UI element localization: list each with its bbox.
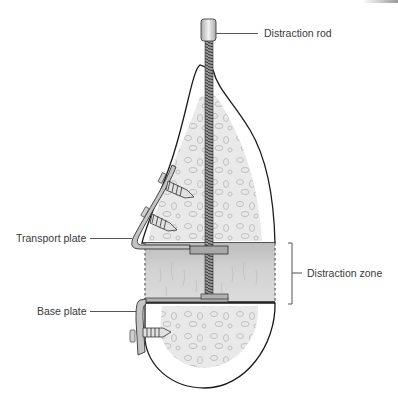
base-plate-leader: [90, 311, 136, 312]
base-nut-block: [201, 294, 228, 299]
transport-nut-block: [190, 246, 228, 254]
transport-plate-leader: [90, 238, 132, 239]
base-plate-label: Base plate: [37, 305, 87, 317]
distraction-zone-bracket: [288, 243, 302, 304]
distraction-rod-leader: [216, 33, 258, 34]
lower-bone-segment: [145, 302, 275, 388]
distraction-zone-label: Distraction zone: [307, 267, 382, 279]
distraction-rod-label: Distraction rod: [264, 27, 332, 39]
transport-plate-label: Transport plate: [16, 232, 86, 244]
distraction-device-diagram: [0, 0, 398, 403]
rod-cap: [201, 19, 216, 41]
